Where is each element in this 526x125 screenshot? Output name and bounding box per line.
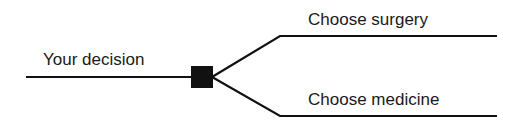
decision-node-square (191, 66, 213, 88)
decision-tree-diagram: Your decision Choose surgery Choose medi… (0, 0, 526, 125)
root-label: Your decision (43, 51, 144, 68)
branch-line-surgery (212, 36, 497, 77)
branch-label-medicine: Choose medicine (308, 91, 439, 108)
branch-label-surgery: Choose surgery (308, 11, 428, 28)
